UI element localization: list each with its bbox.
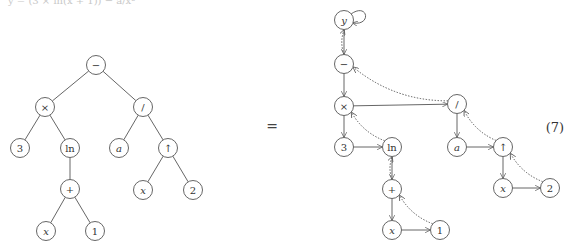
graph-node-times: ×: [335, 97, 354, 116]
tree-edge: [148, 115, 163, 140]
dotted-back-arrow: [352, 112, 385, 140]
tree-node-plus: +: [61, 180, 80, 199]
tree-edge: [75, 197, 90, 223]
dotted-back-arrow: [353, 67, 448, 100]
node-label: ×: [340, 101, 348, 112]
top-formula-fragment: y = (3 × ln(x + 1)) − a/x²: [7, 0, 135, 6]
tree-node-x2: x: [134, 181, 153, 200]
tree-edge: [148, 156, 163, 182]
graph-node-minus: −: [335, 55, 354, 74]
tree-edge: [52, 71, 88, 101]
dotted-back-arrow: [464, 111, 496, 141]
node-label: −: [340, 59, 348, 70]
tree-node-times: ×: [36, 98, 55, 117]
expression-diagram: y = (3 × ln(x + 1)) − a/x² −×/3lna↑+x2x1…: [0, 0, 570, 250]
node-label: y: [340, 15, 347, 26]
tree-node-two: 2: [184, 181, 203, 200]
expression-tree: −×/3lna↑+x2x1: [11, 56, 203, 241]
graph-node-two: 2: [541, 179, 560, 198]
node-label: x: [140, 185, 146, 196]
graph-node-ln: ln: [383, 138, 402, 157]
solid-arrow: [353, 104, 447, 106]
dotted-back-arrow: [400, 195, 433, 223]
tree-node-one: 1: [86, 222, 105, 241]
tree-edge: [173, 156, 188, 182]
tree-node-minus: −: [87, 56, 106, 75]
node-label: −: [92, 60, 100, 71]
graph-node-three: 3: [335, 138, 354, 157]
node-label: x: [500, 183, 506, 194]
graph-node-div: /: [448, 95, 467, 114]
node-label: x: [43, 226, 49, 237]
tree-node-div: /: [134, 98, 153, 117]
node-label: 3: [17, 143, 23, 154]
tree-node-x1: x: [37, 222, 56, 241]
node-label: 1: [437, 225, 443, 236]
graph-node-one: 1: [431, 221, 450, 240]
tree-node-a: a: [110, 139, 129, 158]
tree-edge: [25, 115, 40, 140]
node-label: ↑: [164, 143, 172, 154]
node-label: ↑: [499, 142, 507, 153]
node-label: ×: [41, 102, 49, 113]
dag-graph: y−×/3lna↑+x2x1: [335, 11, 560, 240]
dotted-back-arrow: [511, 154, 543, 182]
tree-edge: [51, 197, 66, 223]
graph-node-pow: ↑: [494, 138, 513, 157]
node-label: ln: [387, 142, 397, 153]
tree-node-ln: ln: [61, 139, 80, 158]
node-label: +: [66, 184, 74, 195]
tree-edge: [50, 115, 65, 140]
node-label: +: [388, 184, 396, 195]
graph-node-a: a: [448, 138, 467, 157]
graph-node-y: y: [335, 11, 354, 30]
equation-number: (7): [546, 120, 564, 135]
node-label: 2: [190, 185, 196, 196]
node-label: a: [116, 143, 122, 154]
node-label: ln: [65, 143, 75, 154]
graph-node-x2: x: [494, 179, 513, 198]
tree-edge: [124, 115, 138, 140]
equals-sign: =: [266, 118, 278, 134]
node-label: a: [454, 142, 460, 153]
node-label: 1: [92, 226, 98, 237]
node-label: 3: [341, 142, 347, 153]
tree-node-pow: ↑: [159, 139, 178, 158]
graph-node-plus: +: [383, 180, 402, 199]
tree-edge: [103, 71, 136, 100]
graph-node-x1: x: [383, 221, 402, 240]
tree-node-three: 3: [11, 139, 30, 158]
node-label: x: [389, 225, 395, 236]
node-label: 2: [547, 183, 553, 194]
